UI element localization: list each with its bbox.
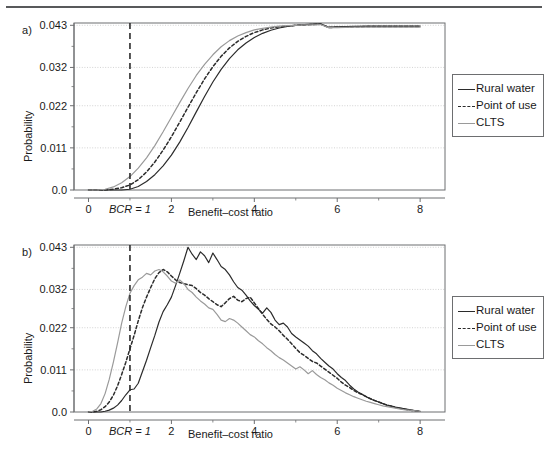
legend-label: Point of use xyxy=(476,99,537,112)
legend-label: Rural water xyxy=(476,304,535,317)
panel-a-label: a) xyxy=(22,24,32,36)
x-tick-label: 0 xyxy=(85,203,91,215)
legend-swatch-point-of-use-icon xyxy=(458,101,475,111)
x-tick-label: 8 xyxy=(417,203,423,215)
y-tick-label: 0.032 xyxy=(39,283,67,295)
series-line-clts xyxy=(89,25,421,190)
x-tick-label: 0 xyxy=(85,425,91,437)
panel-b-plot: 0.00.0110.0220.0320.04302468BCR = 1 xyxy=(0,234,460,449)
legend-swatch-clts-icon xyxy=(458,340,475,350)
legend-label: Point of use xyxy=(476,321,537,334)
panel-a-x-axis-title: Benefit–cost ratio xyxy=(188,206,273,218)
x-tick-label: 2 xyxy=(168,425,174,437)
series-line-point-of-use xyxy=(89,24,421,190)
x-tick-label: 6 xyxy=(334,203,340,215)
legend-swatch-rural-water-icon xyxy=(458,306,475,316)
legend-entry: Rural water xyxy=(458,80,536,97)
legend-entry: CLTS xyxy=(458,336,536,353)
bcr-annotation-label: BCR = 1 xyxy=(109,425,151,437)
x-tick-label: 6 xyxy=(334,425,340,437)
series-line-clts xyxy=(89,270,421,412)
legend-entry: Rural water xyxy=(458,302,536,319)
y-tick-label: 0.032 xyxy=(39,61,67,73)
y-tick-label: 0.022 xyxy=(39,322,67,334)
series-line-point-of-use xyxy=(89,270,421,412)
panel-b-label: b) xyxy=(22,246,32,258)
panel-b-legend: Rural waterPoint of useCLTS xyxy=(452,296,544,359)
legend-label: Rural water xyxy=(476,82,535,95)
series-line-rural-water xyxy=(89,24,421,190)
y-tick-label: 0.0 xyxy=(52,406,67,418)
legend-entry: Point of use xyxy=(458,319,536,336)
panel-a-legend: Rural waterPoint of useCLTS xyxy=(452,74,544,137)
legend-swatch-point-of-use-icon xyxy=(458,323,475,333)
y-tick-label: 0.022 xyxy=(39,100,67,112)
x-tick-label: 2 xyxy=(168,203,174,215)
x-tick-label: 8 xyxy=(417,425,423,437)
panel-b-x-axis-title: Benefit–cost ratio xyxy=(188,428,273,440)
y-tick-label: 0.043 xyxy=(39,19,67,31)
legend-entry: Point of use xyxy=(458,97,536,114)
panel-a-y-axis-title: Probability xyxy=(22,111,34,162)
y-tick-label: 0.0 xyxy=(52,184,67,196)
header-rule xyxy=(6,6,542,8)
y-tick-label: 0.011 xyxy=(40,364,67,376)
panel-a: a) Probability Benefit–cost ratio 0.00.0… xyxy=(0,12,548,234)
legend-swatch-rural-water-icon xyxy=(458,84,475,94)
legend-label: CLTS xyxy=(476,338,505,351)
series-line-rural-water xyxy=(89,247,421,412)
legend-label: CLTS xyxy=(476,116,505,129)
bcr-annotation-label: BCR = 1 xyxy=(109,203,151,215)
panel-b-y-axis-title: Probability xyxy=(22,333,34,384)
y-tick-label: 0.011 xyxy=(40,142,67,154)
panel-b: b) Probability Benefit–cost ratio 0.00.0… xyxy=(0,234,548,457)
y-tick-label: 0.043 xyxy=(39,241,67,253)
panel-a-plot: 0.00.0110.0220.0320.04302468BCR = 1 xyxy=(0,12,460,227)
legend-swatch-clts-icon xyxy=(458,118,475,128)
legend-entry: CLTS xyxy=(458,114,536,131)
